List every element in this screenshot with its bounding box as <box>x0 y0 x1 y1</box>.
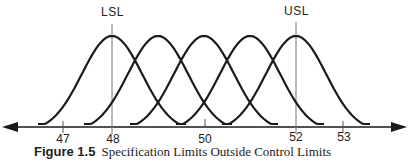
lsl-label: LSL <box>101 5 124 19</box>
tick-label-53: 53 <box>337 130 350 144</box>
caption-text: Specification Limits Outside Control Lim… <box>101 144 331 159</box>
bell-curve-51 <box>176 36 324 124</box>
tick-label-52: 52 <box>289 130 302 144</box>
axis-right-arrow-icon <box>391 122 407 132</box>
caption-number: Figure 1.5 <box>34 144 95 159</box>
axis-left-arrow-icon <box>2 122 18 132</box>
bell-curves <box>38 36 370 124</box>
bell-curve-50 <box>130 36 278 124</box>
bell-curve-49 <box>84 36 232 124</box>
usl-label: USL <box>284 4 309 18</box>
figure-caption: Figure 1.5Specification Limits Outside C… <box>34 144 409 160</box>
